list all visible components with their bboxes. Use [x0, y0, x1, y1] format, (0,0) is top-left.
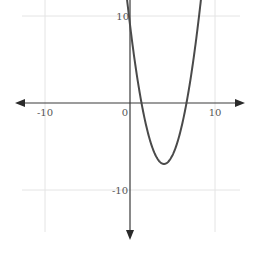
tick-label-x-10: 10: [209, 107, 222, 118]
coordinate-plane: -10 0 10 10 -10: [0, 0, 254, 263]
tick-label-origin: 0: [122, 107, 128, 118]
y-axis-down-arrow-icon: [126, 230, 134, 240]
tick-label-y-10: 10: [116, 11, 129, 22]
x-axis-left-arrow-icon: [15, 99, 25, 107]
parabola-curve: [125, 0, 203, 164]
x-axis-right-arrow-icon: [235, 99, 245, 107]
y-axis: [126, 0, 134, 240]
tick-label-x-neg10: -10: [37, 107, 53, 118]
tick-label-y-neg10: -10: [112, 185, 128, 196]
